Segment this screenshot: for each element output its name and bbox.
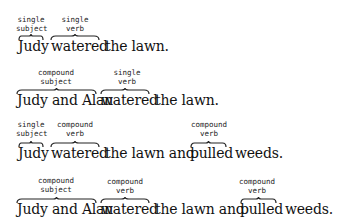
- label-compound-verb: compound verb: [184, 120, 234, 138]
- label-line: verb: [100, 186, 150, 195]
- word-verb: watered: [51, 38, 108, 54]
- word-middle: the lawn and: [155, 201, 245, 217]
- word-verb-1: watered: [101, 201, 158, 217]
- word-rest: the lawn.: [105, 38, 169, 54]
- label-line: verb: [232, 186, 282, 195]
- label-single-verb: single verb: [52, 15, 98, 33]
- label-line: verb: [104, 77, 150, 86]
- label-line: single: [16, 15, 46, 24]
- sentence-2: compound subject single verb Judy and Al…: [0, 56, 340, 112]
- sentence-3: single subject compound verb compound ve…: [0, 110, 340, 166]
- word-rest: the lawn.: [155, 92, 219, 108]
- label-line: subject: [26, 77, 86, 86]
- label-compound-subject: compound subject: [26, 68, 86, 86]
- label-line: subject: [16, 24, 46, 33]
- word-rest: weeds.: [285, 201, 333, 217]
- label-line: compound: [232, 177, 282, 186]
- word-verb: watered: [101, 92, 158, 108]
- word-subject: Judy: [18, 145, 49, 161]
- label-line: verb: [50, 129, 100, 138]
- label-line: compound: [26, 176, 86, 185]
- label-compound-verb: compound verb: [100, 177, 150, 195]
- label-single-subject: single subject: [16, 15, 46, 33]
- label-line: compound: [50, 120, 100, 129]
- word-subject: Judy and Alan: [17, 201, 113, 217]
- sentence-4: compound subject compound verb compound …: [0, 166, 340, 222]
- word-verb-1: watered: [51, 145, 108, 161]
- label-compound-verb: compound verb: [50, 120, 100, 138]
- word-verb-2: pulled: [190, 145, 233, 161]
- label-line: single: [52, 15, 98, 24]
- label-line: compound: [100, 177, 150, 186]
- sentence-1: single subject single verb Judy watered …: [0, 0, 340, 56]
- label-line: verb: [52, 24, 98, 33]
- label-line: single: [16, 120, 46, 129]
- label-line: subject: [26, 185, 86, 194]
- word-subject: Judy and Alan: [17, 92, 113, 108]
- label-line: subject: [16, 129, 46, 138]
- label-compound-verb: compound verb: [232, 177, 282, 195]
- label-compound-subject: compound subject: [26, 176, 86, 194]
- label-single-subject: single subject: [16, 120, 46, 138]
- label-line: verb: [184, 129, 234, 138]
- label-line: compound: [184, 120, 234, 129]
- word-verb-2: pulled: [240, 201, 283, 217]
- word-subject: Judy: [18, 38, 49, 54]
- word-middle: the lawn and: [105, 145, 195, 161]
- word-rest: weeds.: [235, 145, 283, 161]
- label-single-verb: single verb: [104, 68, 150, 86]
- label-line: compound: [26, 68, 86, 77]
- label-line: single: [104, 68, 150, 77]
